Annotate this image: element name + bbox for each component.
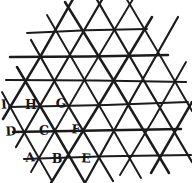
region-label-F: F [71, 121, 81, 136]
grid-line-horizontal [6, 80, 186, 82]
region-label-A: A [24, 149, 36, 165]
region-label-D: D [5, 123, 17, 139]
region-label-C: C [39, 123, 49, 138]
triangular-grid-figure: IHGDCFABE [0, 0, 192, 183]
grid-line-horizontal [27, 29, 147, 33]
grid-line-horizontal [10, 55, 168, 57]
region-label-E: E [81, 150, 91, 165]
region-label-H: H [25, 97, 37, 112]
diagram-canvas: IHGDCFABE [0, 0, 192, 183]
region-label-B: B [52, 151, 63, 166]
grid-line-diagonal-up [120, 62, 186, 175]
region-label-I: I [1, 96, 8, 111]
grid-line-horizontal [24, 155, 191, 159]
region-label-G: G [55, 95, 66, 111]
